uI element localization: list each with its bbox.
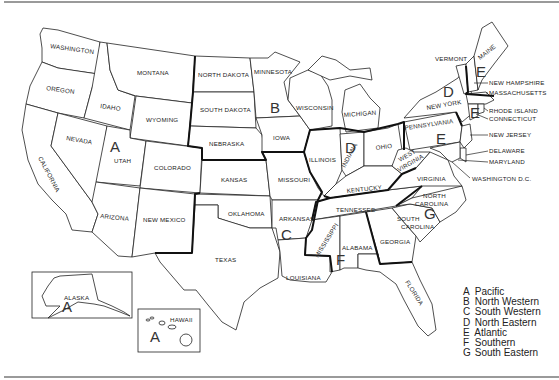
label-hawaii: HAWAII <box>170 316 193 323</box>
label-north-dakota: NORTH DAKOTA <box>198 71 250 78</box>
label-alabama: ALABAMA <box>342 244 373 251</box>
state-new-jersey <box>460 124 472 148</box>
label-oklahoma: OKLAHOMA <box>228 210 265 217</box>
label-colorado: COLORADO <box>154 164 191 171</box>
label-texas: TEXAS <box>215 256 236 263</box>
label-vermont: VERMONT <box>435 55 467 62</box>
label-connecticut: CONNECTICUT <box>489 115 536 122</box>
region-marker-d-ny: D <box>443 83 454 100</box>
leader-maryland <box>458 160 488 162</box>
label-tennessee: TENNESSEE <box>336 206 375 213</box>
label-utah: UTAH <box>114 157 131 164</box>
hawaii-island <box>168 325 176 329</box>
label-nebraska: NEBRASKA <box>209 140 245 147</box>
region-marker-a-alaska: A <box>62 298 72 315</box>
label-washington-dc: WASHINGTON D.C. <box>472 175 531 182</box>
label-rhode-island: RHODE ISLAND <box>489 107 538 114</box>
leader-washington-dc <box>452 162 470 178</box>
region-legend: A Pacific B North Western C South Wester… <box>463 287 541 358</box>
region-marker-a-hawaii: A <box>150 328 160 345</box>
label-minnesota: MINNESOTA <box>254 68 293 75</box>
region-marker-e-me: E <box>476 63 486 80</box>
label-arkansas: ARKANSAS <box>279 215 314 222</box>
label-missouri: MISSOURI <box>278 176 310 183</box>
label-new-hampshire: NEW HAMPSHIRE <box>489 79 545 86</box>
hawaii-island <box>146 319 150 321</box>
region-marker-f: F <box>336 251 345 268</box>
region-marker-e-ct: E <box>470 104 480 121</box>
label-montana: MONTANA <box>137 69 170 76</box>
region-marker-c: C <box>281 226 292 243</box>
hawaii-island <box>150 317 154 319</box>
label-wisconsin: WISCONSIN <box>296 104 334 111</box>
label-new-jersey: NEW JERSEY <box>489 131 531 138</box>
label-north-carolina-1: NORTH <box>423 192 446 199</box>
label-iowa: IOWA <box>273 134 291 141</box>
region-marker-b: B <box>270 99 280 116</box>
hawaii-island <box>159 321 165 325</box>
leader-rhode-island <box>484 108 488 111</box>
legend-item: G South Eastern <box>463 348 541 358</box>
region-marker-d-in: D <box>345 139 356 156</box>
label-virginia: VIRGINIA <box>417 175 446 182</box>
region-marker-g: G <box>424 205 436 222</box>
region-marker-a: A <box>110 138 120 155</box>
region-marker-e-pa: E <box>436 130 446 147</box>
label-south-dakota: SOUTH DAKOTA <box>200 106 251 113</box>
label-new-mexico: NEW MEXICO <box>143 216 186 223</box>
label-massachusetts: MASSACHUSETTS <box>489 89 547 96</box>
label-south-carolina-1: SOUTH <box>397 215 420 222</box>
label-louisiana: LOUISIANA <box>286 274 321 281</box>
label-kansas: KANSAS <box>221 176 247 183</box>
label-delaware: DELAWARE <box>489 147 525 154</box>
leader-delaware <box>466 151 488 155</box>
hawaii-island <box>180 334 192 346</box>
label-georgia: GEORGIA <box>380 238 411 245</box>
label-wyoming: WYOMING <box>146 116 178 123</box>
label-illinois: ILLINOIS <box>309 156 336 163</box>
state-florida <box>358 254 436 336</box>
label-south-carolina-2: CAROLINA <box>401 223 435 230</box>
label-maryland: MARYLAND <box>489 158 525 165</box>
